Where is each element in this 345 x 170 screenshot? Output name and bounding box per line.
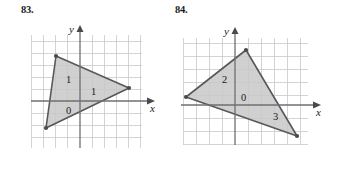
interior-label-1b: 1 [91,86,96,97]
vertex-dot [127,86,131,90]
y-axis-arrow-83 [77,25,84,32]
x-axis-label-83: x [149,102,155,114]
vertex-dot [295,134,299,138]
coordinate-plot-83: y x 1 1 0 [0,0,172,170]
vertex-dot [44,126,48,130]
y-axis-label-83: y [68,23,74,35]
exercise-figure-83: 83. [0,0,172,170]
interior-label-1a: 1 [66,74,71,85]
vertex-dot [54,54,58,58]
y-axis-arrow-84 [232,27,239,34]
interior-label-2: 2 [222,74,227,85]
y-axis-label-84: y [223,25,229,37]
interior-label-3: 3 [273,111,278,122]
interior-label-0: 0 [66,105,71,116]
vertex-dot [184,95,188,99]
triangle-shape-83 [46,56,129,128]
x-axis-label-84: x [315,106,321,118]
exercise-figure-84: 84. [172,0,345,170]
vertex-dot [244,48,248,52]
coordinate-plot-84: y x 2 0 3 [172,0,345,170]
interior-label-0: 0 [241,92,246,103]
